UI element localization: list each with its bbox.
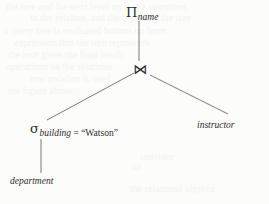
edge-join-to-select bbox=[47, 73, 134, 120]
edge-join-to-instructor bbox=[150, 75, 228, 114]
figure-canvas: the tree and the next level up is the op… bbox=[0, 0, 269, 204]
selection-predicate-operator: = bbox=[71, 128, 81, 138]
node-natural-join: ⋈ bbox=[133, 61, 147, 77]
node-projection: Πname bbox=[126, 4, 158, 20]
selection-predicate-attribute: building bbox=[39, 128, 71, 138]
projection-attribute-list: name bbox=[138, 12, 159, 22]
node-selection: σbuilding = “Watson” bbox=[30, 120, 117, 136]
tree-edges bbox=[0, 0, 269, 204]
selection-predicate: building = “Watson” bbox=[39, 128, 117, 138]
bowtie-natural-join-symbol: ⋈ bbox=[133, 62, 147, 76]
sigma-selection-symbol: σ bbox=[30, 121, 39, 136]
leaf-relation-instructor: instructor bbox=[197, 121, 234, 131]
selection-predicate-value: “Watson” bbox=[81, 128, 118, 138]
leaf-relation-department: department bbox=[10, 177, 53, 187]
pi-projection-symbol: Π bbox=[126, 5, 137, 20]
